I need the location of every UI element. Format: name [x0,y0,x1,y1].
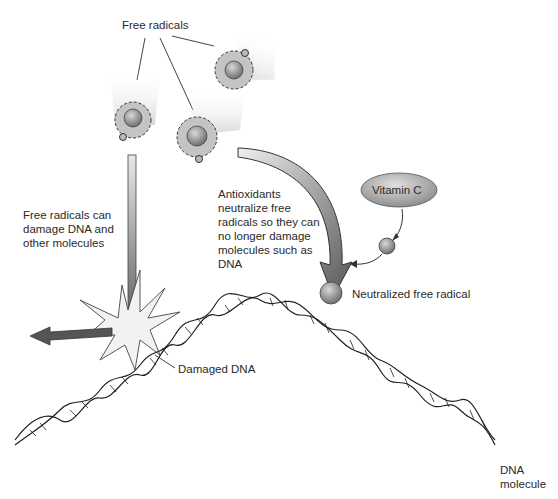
dna-base-pairs [30,298,486,436]
neutralized-radical [320,282,342,304]
free-radicals-label: Free radicals [122,18,188,32]
dna-molecule-label: DNA molecule [500,463,546,491]
antioxidants-label: Antioxidants neutralize free radicals so… [218,187,320,271]
vitamin-c-label: Vitamin C [372,183,422,197]
damage-left-arrow [30,327,112,345]
damaged-dna-pointer [155,355,175,368]
electron-transfer-arrow [353,254,382,264]
free-radical-atom [177,90,245,163]
free-radical-atom [110,70,160,141]
damaged-dna-label: Damaged DNA [178,362,255,376]
free-radicals-damage-label: Free radicals can damage DNA and other m… [23,208,114,250]
free-radical-atom [215,25,288,94]
neutralized-radical-label: Neutralized free radical [352,287,470,301]
